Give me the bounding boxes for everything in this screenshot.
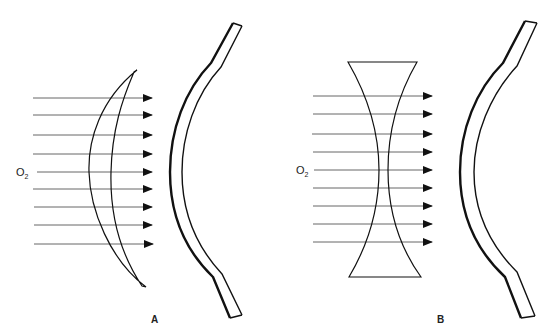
oxygen-label-a: O2 bbox=[16, 166, 29, 180]
panel-b: O2 B bbox=[296, 21, 537, 325]
panel-label-a: A bbox=[151, 314, 158, 325]
panel-label-b: B bbox=[437, 314, 444, 325]
panel-a: O2 A bbox=[16, 23, 242, 325]
oxygen-label-b: O2 bbox=[296, 164, 309, 178]
wall-b bbox=[460, 21, 537, 318]
wall-a bbox=[170, 23, 242, 318]
meniscus-lens bbox=[89, 70, 146, 287]
diagram-canvas: O2 A O2 B bbox=[0, 0, 555, 334]
oxygen-arrows-a bbox=[33, 98, 153, 244]
